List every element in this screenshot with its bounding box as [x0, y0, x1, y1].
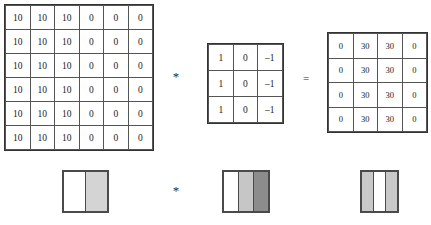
matrix-cell: 10	[6, 126, 31, 150]
matrix-cell: 0	[329, 34, 354, 59]
matrix-cell: –1	[258, 97, 283, 123]
matrix-cell: 0	[79, 30, 104, 54]
matrix-cell: 10	[30, 54, 55, 78]
matrix-cell: 0	[402, 107, 427, 132]
bright-left-half-band	[64, 172, 86, 211]
matrix-row: 10–1	[209, 71, 283, 97]
matrix-cell: 0	[233, 71, 258, 97]
light-gray-band-band	[386, 172, 397, 211]
output-image-visual	[360, 170, 399, 213]
matrix-row: 101010000	[6, 6, 153, 30]
matrix-cell: 0	[128, 102, 153, 126]
input-image-visual	[62, 170, 109, 213]
matrix-cell: 0	[233, 97, 258, 123]
matrix-cell: 0	[79, 126, 104, 150]
light-gray-band-band	[239, 172, 254, 211]
matrix-cell: 0	[128, 78, 153, 102]
matrix-cell: 0	[402, 83, 427, 108]
matrix-cell: 30	[378, 34, 403, 59]
output-feature-map-matrix: 030300030300030300030300	[328, 33, 427, 132]
matrix-cell: 0	[104, 30, 129, 54]
convolution-operator-top: *	[170, 70, 182, 83]
matrix-row: 101010000	[6, 30, 153, 54]
matrix-cell: 10	[6, 6, 31, 30]
matrix-cell: 0	[233, 45, 258, 71]
matrix-cell: 30	[353, 107, 378, 132]
matrix-cell: 30	[353, 83, 378, 108]
matrix-cell: 30	[353, 34, 378, 59]
matrix-cell: 10	[55, 6, 80, 30]
matrix-cell: 10	[55, 30, 80, 54]
matrix-cell: 0	[128, 6, 153, 30]
matrix-row: 101010000	[6, 126, 153, 150]
matrix-row: 10–1	[209, 97, 283, 123]
matrix-cell: 0	[104, 54, 129, 78]
matrix-cell: 0	[79, 102, 104, 126]
light-gray-band-band	[362, 172, 374, 211]
equals-operator-top: =	[300, 73, 312, 84]
matrix-row: 030300	[329, 107, 427, 132]
matrix-row: 101010000	[6, 102, 153, 126]
matrix-cell: 10	[30, 78, 55, 102]
matrix-row: 030300	[329, 58, 427, 83]
matrix-cell: 10	[6, 54, 31, 78]
matrix-cell: 0	[402, 58, 427, 83]
matrix-row: 030300	[329, 83, 427, 108]
matrix-cell: 0	[402, 34, 427, 59]
matrix-cell: 10	[30, 6, 55, 30]
matrix-cell: 30	[378, 83, 403, 108]
matrix-cell: 30	[378, 58, 403, 83]
matrix-cell: 30	[378, 107, 403, 132]
matrix-cell: 0	[104, 6, 129, 30]
matrix-cell: –1	[258, 71, 283, 97]
kernel-visual	[222, 170, 270, 213]
matrix-cell: 0	[329, 107, 354, 132]
matrix-cell: 0	[128, 126, 153, 150]
matrix-cell: 10	[6, 102, 31, 126]
matrix-cell: 0	[79, 54, 104, 78]
matrix-row: 030300	[329, 34, 427, 59]
matrix-cell: 0	[329, 83, 354, 108]
matrix-cell: 0	[329, 58, 354, 83]
matrix-cell: 10	[55, 54, 80, 78]
convolution-figure: 1010100001010100001010100001010100001010…	[0, 0, 431, 225]
matrix-cell: 10	[30, 30, 55, 54]
matrix-cell: 0	[128, 30, 153, 54]
matrix-cell: 0	[104, 126, 129, 150]
dark-gray-band-band	[254, 172, 268, 211]
matrix-cell: 0	[79, 78, 104, 102]
matrix-cell: 0	[104, 78, 129, 102]
matrix-cell: 10	[55, 78, 80, 102]
matrix-cell: 0	[104, 102, 129, 126]
convolution-operator-bottom: *	[170, 184, 182, 197]
gray-right-half-band	[86, 172, 107, 211]
matrix-cell: 30	[353, 58, 378, 83]
matrix-cell: 10	[30, 126, 55, 150]
matrix-cell: 10	[30, 102, 55, 126]
matrix-cell: 10	[6, 78, 31, 102]
filter-kernel-matrix: 10–110–110–1	[208, 44, 283, 123]
matrix-row: 101010000	[6, 78, 153, 102]
matrix-cell: 0	[79, 6, 104, 30]
matrix-cell: 0	[128, 54, 153, 78]
matrix-cell: 1	[209, 71, 234, 97]
matrix-cell: –1	[258, 45, 283, 71]
matrix-cell: 10	[55, 126, 80, 150]
white-band-band	[374, 172, 386, 211]
input-image-matrix: 1010100001010100001010100001010100001010…	[5, 5, 153, 150]
white-band-band	[224, 172, 239, 211]
matrix-row: 10–1	[209, 45, 283, 71]
matrix-row: 101010000	[6, 54, 153, 78]
matrix-cell: 1	[209, 97, 234, 123]
matrix-cell: 10	[55, 102, 80, 126]
matrix-cell: 10	[6, 30, 31, 54]
matrix-cell: 1	[209, 45, 234, 71]
